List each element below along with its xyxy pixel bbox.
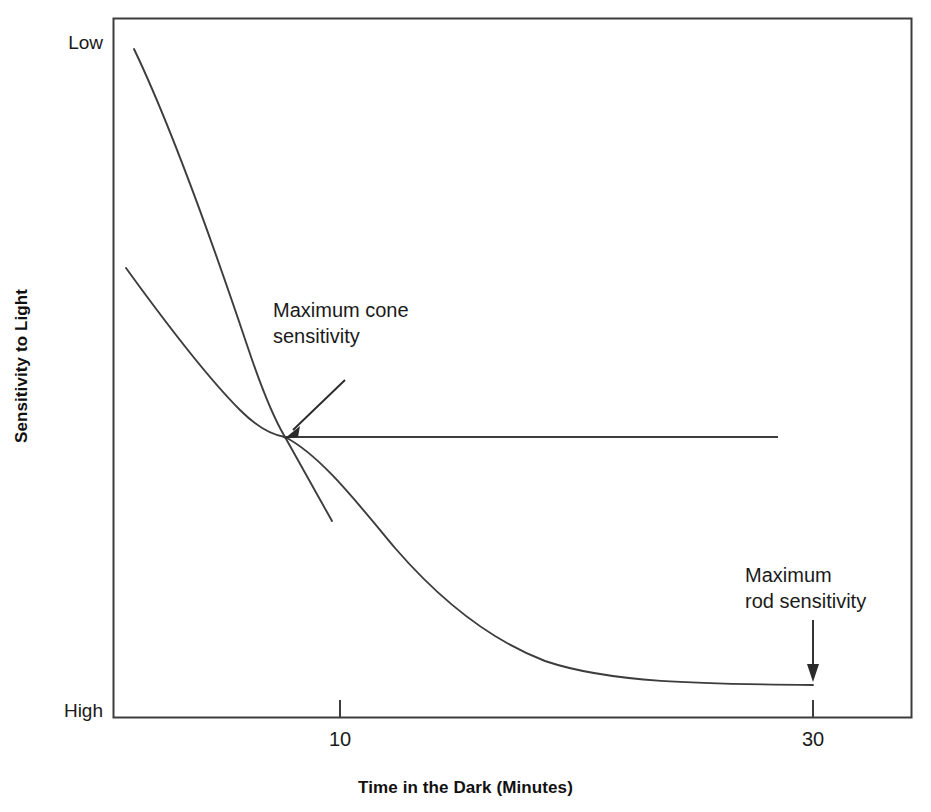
- annotation-maximum-cone-sensitivity: Maximum cone sensitivity: [273, 297, 409, 349]
- y-axis-label-high: High: [18, 700, 103, 722]
- y-axis-title-text: Sensitivity to Light: [12, 289, 32, 443]
- y-axis-label-low: Low: [18, 32, 103, 54]
- annotation-maximum-rod-sensitivity: Maximum rod sensitivity: [745, 562, 866, 614]
- rod-annotation-arrow-head: [807, 664, 819, 682]
- x-tick-label-30: 30: [773, 728, 853, 751]
- annotation-rod-line2: rod sensitivity: [745, 588, 866, 614]
- plot-area: [0, 0, 931, 812]
- dark-adaptation-chart: Sensitivity to Light Low High 10 30 Time…: [0, 0, 931, 812]
- x-axis-title: Time in the Dark (Minutes): [0, 778, 931, 798]
- x-tick-label-10: 10: [300, 728, 380, 751]
- rod-adaptation-curve: [126, 268, 813, 685]
- x-axis-title-text: Time in the Dark (Minutes): [358, 778, 573, 797]
- annotation-cone-line2: sensitivity: [273, 323, 409, 349]
- annotation-cone-line1: Maximum cone: [273, 297, 409, 323]
- cone-annotation-arrow-shaft: [293, 380, 345, 430]
- cone-curve-tail: [285, 437, 332, 521]
- annotation-rod-line1: Maximum: [745, 562, 866, 588]
- cone-adaptation-curve: [134, 49, 285, 437]
